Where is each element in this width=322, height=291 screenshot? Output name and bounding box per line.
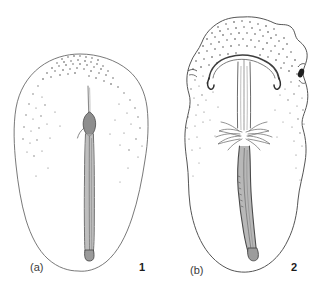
panel-b-left-margin-tuft	[188, 70, 197, 78]
panel-b-basal-tip	[248, 248, 259, 261]
panel-a-drawing	[14, 54, 148, 271]
panel-a-outline	[14, 54, 148, 271]
figure-plate: (a) 1 (b) 2	[0, 0, 322, 291]
panel-a-stipple-apical	[42, 55, 119, 88]
panel-a-stipple-lateral	[22, 85, 142, 182]
panel-a-apical-filament	[88, 86, 89, 116]
panel-b-filament-right	[250, 62, 251, 128]
panel-a-bulb-barb	[78, 128, 85, 138]
panel-b-hook-left	[208, 78, 214, 89]
panel-a-basal-tip	[85, 250, 94, 261]
panel-a-letter-label: (a)	[30, 262, 43, 273]
plate-illustration	[0, 0, 322, 291]
panel-b-stipple-apical	[192, 20, 297, 74]
panel-b-letter-label: (b)	[190, 265, 203, 276]
panel-b-number-label: 2	[291, 262, 297, 273]
panel-b-filament-left	[237, 62, 238, 128]
panel-a-number-label: 1	[139, 262, 145, 273]
panel-b-drawing	[185, 17, 308, 272]
panel-b-shaft-body	[238, 146, 257, 253]
panel-a-median-bulb	[83, 112, 95, 136]
panel-b-hook-right	[274, 78, 280, 89]
